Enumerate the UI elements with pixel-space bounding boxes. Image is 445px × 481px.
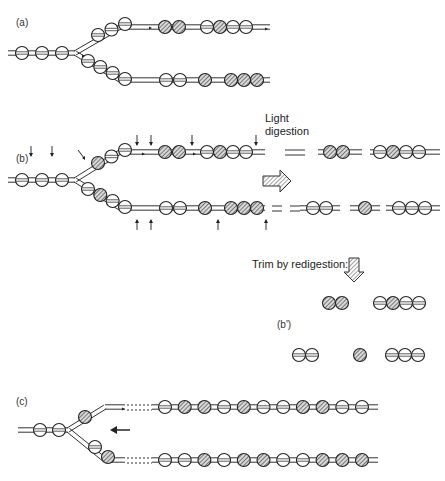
cut-site-arrow [264,219,268,223]
parental-nucleosome [16,174,29,187]
new-nucleosome [102,451,115,464]
parental-nucleosome [16,47,29,60]
strand-direction-arrow [193,153,196,156]
parental-nucleosome [406,202,419,215]
parental-nucleosome [227,21,240,34]
new-nucleosome [336,454,349,467]
new-nucleosome [316,401,329,414]
parental-nucleosome [412,349,425,362]
parental-nucleosome [105,150,118,163]
panel-label-a: (a) [16,17,28,28]
new-nucleosome [159,21,172,34]
parental-nucleosome [160,74,173,87]
panel-label-b-prime: (b') [277,319,291,330]
parental-nucleosome [320,202,333,215]
new-nucleosome [354,349,367,362]
parental-nucleosome [419,202,432,215]
new-nucleosome [198,454,211,467]
cut-site-arrow [149,142,153,146]
panel-label-b: (b) [16,153,28,164]
parental-nucleosome [400,297,413,310]
cut-site-arrow [216,219,220,223]
new-nucleosome [316,454,329,467]
parental-nucleosome [174,202,187,215]
parental-nucleosome [105,23,118,36]
parental-nucleosome [106,195,119,208]
parental-nucleosome [178,454,191,467]
parental-nucleosome [413,297,426,310]
trim-by-redigestion-label: Trim by redigestion: [252,258,348,270]
parental-nucleosome [356,401,369,414]
parental-nucleosome [119,144,132,157]
parental-nucleosome [277,454,290,467]
cut-site-arrow [190,142,194,146]
parental-nucleosome [94,61,107,74]
parental-nucleosome [201,21,214,34]
parental-nucleosome [257,401,270,414]
new-nucleosome [225,74,238,87]
parental-nucleosome [240,146,253,159]
new-nucleosome [296,401,309,414]
chromatin-replication-diagram: (a) (b) (b') (c) Light digestion Trim by… [0,0,445,481]
parental-nucleosome [56,47,69,60]
new-nucleosome [198,401,211,414]
cut-site-arrow [50,153,54,157]
parental-nucleosome [374,297,387,310]
new-nucleosome [324,146,337,159]
parental-nucleosome [119,73,132,86]
new-nucleosome [173,21,186,34]
light-digestion-label-line2: digestion [265,125,309,137]
parental-nucleosome [119,201,132,214]
new-nucleosome [257,454,270,467]
cut-site-arrow [149,219,153,223]
new-nucleosome [251,202,264,215]
new-nucleosome [199,202,212,215]
new-nucleosome [238,74,251,87]
parental-nucleosome [82,183,95,196]
diagram-drawing [8,18,440,467]
parental-nucleosome [307,202,320,215]
strand-direction-arrow [142,153,145,156]
new-nucleosome [356,454,369,467]
parental-nucleosome [306,349,319,362]
parental-nucleosome [393,202,406,215]
parental-nucleosome [159,401,172,414]
strand-direction-arrow [265,28,268,31]
process-arrow-right [263,170,291,192]
strand-direction-arrow [122,408,125,411]
parental-nucleosome [218,454,231,467]
new-nucleosome [337,146,350,159]
parental-nucleosome [227,146,240,159]
cut-site-arrow [78,150,84,158]
parental-nucleosome [240,21,253,34]
new-nucleosome [237,401,250,414]
parental-nucleosome [386,349,399,362]
parental-nucleosome [89,441,102,454]
parental-nucleosome [159,454,172,467]
new-nucleosome [92,157,105,170]
new-nucleosome [225,202,238,215]
parental-nucleosome [296,454,309,467]
panel-label-c: (c) [16,396,28,407]
parental-nucleosome [336,401,349,414]
cut-site-arrow [135,219,139,223]
parental-nucleosome [160,202,173,215]
parental-nucleosome [174,74,187,87]
parental-nucleosome [277,401,290,414]
parental-nucleosome [34,424,47,437]
new-nucleosome [79,411,92,424]
parental-nucleosome [293,349,306,362]
cut-site-arrow [254,142,258,146]
parental-nucleosome [400,146,413,159]
parental-nucleosome [218,401,231,414]
new-nucleosome [214,21,227,34]
new-nucleosome [178,401,191,414]
new-nucleosome [237,454,250,467]
parental-nucleosome [92,29,105,42]
fork-direction-arrow [110,426,117,434]
light-digestion-label-line1: Light [265,112,289,124]
parental-nucleosome [53,424,66,437]
new-nucleosome [94,189,107,202]
parental-nucleosome [201,146,214,159]
parental-nucleosome [399,349,412,362]
